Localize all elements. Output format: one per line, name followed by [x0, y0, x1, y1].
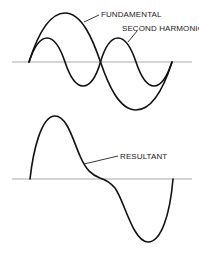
resultant-label: RESULTANT	[120, 152, 167, 161]
bottom-panel: RESULTANT	[12, 116, 192, 242]
fundamental-leader-line	[84, 15, 99, 22]
fundamental-label: FUNDAMENTAL	[101, 10, 162, 19]
top-panel: FUNDAMENTAL SECOND HARMONIC	[12, 10, 199, 110]
harmonic-diagram: FUNDAMENTAL SECOND HARMONIC RESULTANT	[0, 0, 199, 258]
diagram-svg: FUNDAMENTAL SECOND HARMONIC RESULTANT	[0, 0, 199, 258]
second-harmonic-label: SECOND HARMONIC	[122, 24, 199, 33]
resultant-leader-line	[84, 156, 118, 164]
